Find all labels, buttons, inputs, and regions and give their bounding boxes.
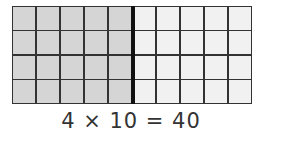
unshaded-cell bbox=[181, 80, 203, 103]
shaded-cell bbox=[61, 56, 83, 79]
shaded-cell bbox=[85, 80, 107, 103]
unshaded-cell bbox=[157, 56, 179, 79]
unshaded-cell bbox=[229, 80, 251, 103]
unshaded-cell bbox=[229, 56, 251, 79]
unshaded-cell bbox=[157, 31, 179, 54]
shaded-cell bbox=[109, 80, 131, 103]
unshaded-cell bbox=[157, 7, 179, 30]
unshaded-cell bbox=[181, 31, 203, 54]
shaded-cell bbox=[13, 56, 35, 79]
shaded-cell bbox=[85, 31, 107, 54]
unshaded-cell bbox=[205, 31, 227, 54]
unshaded-cell bbox=[181, 7, 203, 30]
unshaded-cell bbox=[181, 56, 203, 79]
shaded-cell bbox=[37, 56, 59, 79]
shaded-cell bbox=[37, 80, 59, 103]
unshaded-cell bbox=[157, 80, 179, 103]
half-divider-line bbox=[131, 6, 135, 104]
unshaded-cell bbox=[205, 56, 227, 79]
shaded-cell bbox=[109, 31, 131, 54]
shaded-cell bbox=[85, 7, 107, 30]
shaded-cell bbox=[61, 80, 83, 103]
unshaded-cell bbox=[133, 56, 155, 79]
shaded-cell bbox=[109, 7, 131, 30]
unshaded-cell bbox=[205, 80, 227, 103]
shaded-cell bbox=[13, 7, 35, 30]
shaded-cell bbox=[61, 7, 83, 30]
equation-label: 4 × 10 = 40 bbox=[0, 109, 262, 133]
unshaded-cell bbox=[229, 31, 251, 54]
shaded-cell bbox=[13, 80, 35, 103]
unshaded-cell bbox=[205, 7, 227, 30]
shaded-cell bbox=[13, 31, 35, 54]
unshaded-cell bbox=[229, 7, 251, 30]
shaded-cell bbox=[85, 56, 107, 79]
unshaded-cell bbox=[133, 31, 155, 54]
unshaded-cell bbox=[133, 80, 155, 103]
unshaded-cell bbox=[133, 7, 155, 30]
shaded-cell bbox=[37, 31, 59, 54]
shaded-cell bbox=[61, 31, 83, 54]
shaded-cell bbox=[109, 56, 131, 79]
shaded-cell bbox=[37, 7, 59, 30]
